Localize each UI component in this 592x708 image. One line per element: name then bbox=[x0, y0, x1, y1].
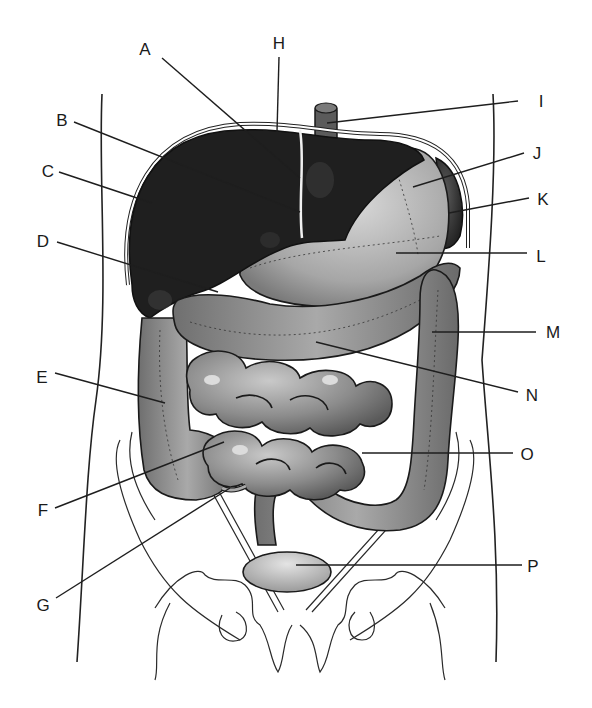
label-o: O bbox=[520, 445, 533, 464]
label-m: M bbox=[546, 323, 560, 342]
digestive-system-diagram: AHIBJCKDLMENOFGP bbox=[0, 0, 592, 708]
label-c: C bbox=[42, 162, 54, 181]
label-d: D bbox=[37, 232, 49, 251]
bladder bbox=[243, 552, 331, 592]
label-p: P bbox=[527, 557, 538, 576]
label-j: J bbox=[533, 144, 542, 163]
label-a: A bbox=[139, 40, 151, 59]
label-h: H bbox=[273, 34, 285, 53]
label-e: E bbox=[36, 368, 47, 387]
falciform-ligament bbox=[300, 130, 302, 238]
leader-line-g bbox=[56, 488, 230, 598]
label-i: I bbox=[539, 92, 544, 111]
label-g: G bbox=[36, 596, 49, 615]
label-l: L bbox=[536, 247, 545, 266]
small-intestine bbox=[187, 351, 392, 500]
label-b: B bbox=[56, 111, 67, 130]
label-k: K bbox=[537, 190, 549, 209]
leader-line-i bbox=[327, 101, 518, 123]
leader-line-h bbox=[277, 57, 279, 132]
label-n: N bbox=[526, 386, 538, 405]
label-f: F bbox=[38, 501, 48, 520]
